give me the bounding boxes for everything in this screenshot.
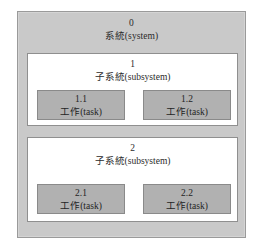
system-name: 系統(system): [18, 30, 245, 43]
task-index-1-2: 1.2: [144, 93, 230, 106]
subsystem-name-1: 子系統(subsystem): [28, 71, 237, 84]
task-row-2: 2.1 工作(task) 2.2 工作(task): [28, 184, 237, 214]
task-index-2-1: 2.1: [38, 187, 124, 200]
task-name-1-2: 工作(task): [144, 106, 230, 119]
task-index-1-1: 1.1: [38, 93, 124, 106]
system-box: 0 系統(system) 1 子系統(subsystem) 1.1 工作(tas…: [17, 11, 246, 238]
task-name-1-1: 工作(task): [38, 106, 124, 119]
subsystem-label-2: 2 子系統(subsystem): [28, 142, 237, 167]
system-hierarchy-diagram: 0 系統(system) 1 子系統(subsystem) 1.1 工作(tas…: [0, 0, 260, 249]
task-box-1-1: 1.1 工作(task): [37, 90, 125, 120]
subsystem-name-2: 子系統(subsystem): [28, 155, 237, 168]
task-name-2-1: 工作(task): [38, 200, 124, 213]
subsystem-label-1: 1 子系統(subsystem): [28, 58, 237, 83]
subsystem-index-1: 1: [28, 58, 237, 71]
task-box-1-2: 1.2 工作(task): [143, 90, 231, 120]
task-index-2-2: 2.2: [144, 187, 230, 200]
subsystem-box-1: 1 子系統(subsystem) 1.1 工作(task) 1.2 工作(tas…: [27, 53, 238, 126]
subsystem-index-2: 2: [28, 142, 237, 155]
task-box-2-2: 2.2 工作(task): [143, 184, 231, 214]
task-box-2-1: 2.1 工作(task): [37, 184, 125, 214]
system-label: 0 系統(system): [18, 17, 245, 42]
subsystem-box-2: 2 子系統(subsystem) 2.1 工作(task) 2.2 工作(tas…: [27, 137, 238, 222]
system-index: 0: [18, 17, 245, 30]
task-row-1: 1.1 工作(task) 1.2 工作(task): [28, 90, 237, 120]
task-name-2-2: 工作(task): [144, 200, 230, 213]
